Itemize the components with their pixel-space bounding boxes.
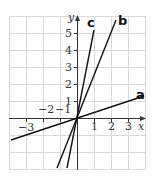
line-a-label: a <box>136 87 145 102</box>
y-tick-3: 3 <box>65 61 72 74</box>
y-tick-2: 2 <box>65 78 72 91</box>
x-tick-1: 1 <box>91 120 98 133</box>
coordinate-plane: y x 5 4 3 2 1 −3 −2 −1 1 2 3 a b c <box>0 0 153 178</box>
y-axis-arrow-icon <box>75 15 80 21</box>
x-tick-3: 3 <box>125 120 132 133</box>
x-tick-2: 2 <box>108 120 115 133</box>
line-c-label: c <box>87 15 95 30</box>
y-tick-4: 4 <box>65 44 72 57</box>
x-axis-label: x <box>138 120 145 133</box>
axes <box>9 20 143 170</box>
y-axis-label: y <box>67 11 75 24</box>
x-tick-neg2: −2 <box>38 103 54 116</box>
line-b-label: b <box>118 13 127 28</box>
y-tick-5: 5 <box>65 27 72 40</box>
x-tick-neg3: −3 <box>18 121 34 134</box>
line-b <box>57 20 116 168</box>
x-tick-neg1: −1 <box>55 103 71 116</box>
